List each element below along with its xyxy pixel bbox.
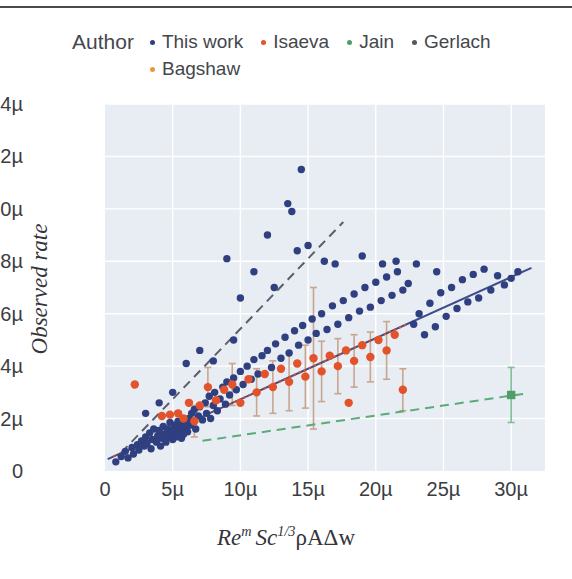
- x-axis-title-exp-m: m: [241, 523, 251, 539]
- x-axis-title-exp-third: 1/3: [277, 523, 295, 539]
- x-axis-title: RemSc1/3ρAΔw: [0, 523, 572, 551]
- x-tick-label: 20µ: [341, 478, 411, 501]
- y-axis-title: Observed rate: [27, 169, 53, 409]
- y-tick-label: 14µ: [0, 93, 23, 116]
- x-tick-label: 25µ: [408, 478, 478, 501]
- x-tick-label: 15µ: [273, 478, 343, 501]
- x-axis-title-tail: ρAΔw: [296, 525, 356, 550]
- x-tick-label: 10µ: [205, 478, 275, 501]
- y-tick-label: 0: [0, 460, 23, 483]
- x-axis-title-re: Re: [217, 525, 241, 550]
- x-tick-label: 5µ: [138, 478, 208, 501]
- y-tick-label: 10µ: [0, 197, 23, 220]
- x-axis-title-sc: Sc: [256, 525, 278, 550]
- data-points-layer: [105, 104, 545, 471]
- x-tick-label: 0: [70, 478, 140, 501]
- y-tick-label: 6µ: [0, 302, 23, 325]
- y-tick-label: 8µ: [0, 250, 23, 273]
- plot-area: [105, 104, 545, 471]
- y-tick-label: 4µ: [0, 355, 23, 378]
- plot-wrapper: 02µ4µ6µ8µ10µ12µ14µ 05µ10µ15µ20µ25µ30µ Ob…: [0, 0, 572, 579]
- y-tick-label: 12µ: [0, 145, 23, 168]
- y-tick-label: 2µ: [0, 407, 23, 430]
- figure-scatter-plot: Author This workIsaevaJainGerlach Bagsha…: [0, 0, 572, 579]
- x-tick-label: 30µ: [476, 478, 546, 501]
